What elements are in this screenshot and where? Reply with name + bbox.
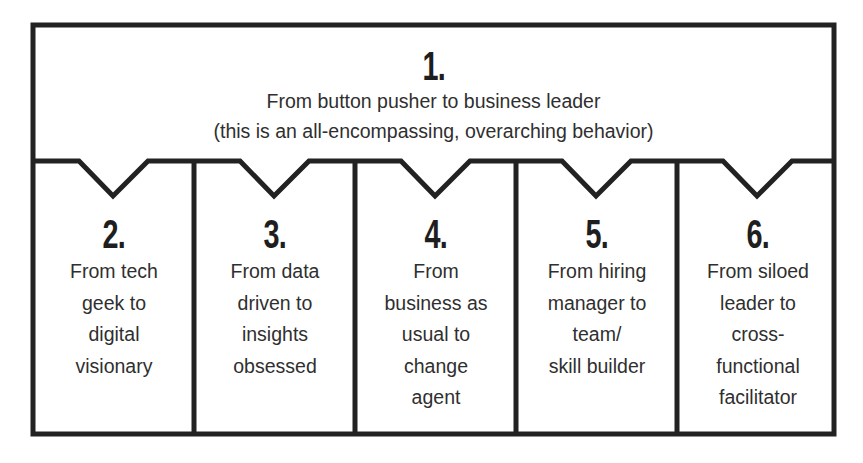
text-line: facilitator bbox=[679, 382, 837, 414]
behavior-number: 6. bbox=[747, 214, 770, 254]
notched-divider bbox=[33, 161, 834, 196]
overarching-behavior-box: 1. From button pusher to business leader… bbox=[34, 26, 833, 158]
text-line: manager to bbox=[518, 288, 676, 320]
behavior-number: 3. bbox=[264, 214, 287, 254]
text-line: From hiring bbox=[518, 256, 676, 288]
behavior-text: From siloed leader to cross- functional … bbox=[679, 256, 837, 414]
text-line: leader to bbox=[679, 288, 837, 320]
behavior-text: From hiring manager to team/ skill build… bbox=[518, 256, 676, 382]
behavior-number: 1. bbox=[422, 46, 445, 86]
behavior-text: From business as usual to change agent bbox=[357, 256, 515, 414]
text-line: obsessed bbox=[196, 351, 354, 383]
text-line: digital bbox=[35, 319, 193, 351]
text-line: From bbox=[357, 256, 515, 288]
behavior-text: From tech geek to digital visionary bbox=[35, 256, 193, 382]
behavior-title: From button pusher to business leader bbox=[34, 86, 833, 116]
text-line: skill builder bbox=[518, 351, 676, 383]
text-line: cross- bbox=[679, 319, 837, 351]
behavior-column-3: 3. From data driven to insights obsessed bbox=[196, 200, 354, 434]
text-line: geek to bbox=[35, 288, 193, 320]
text-line: From data bbox=[196, 256, 354, 288]
text-line: From siloed bbox=[679, 256, 837, 288]
text-line: business as bbox=[357, 288, 515, 320]
text-line: functional bbox=[679, 351, 837, 383]
text-line: agent bbox=[357, 382, 515, 414]
text-line: team/ bbox=[518, 319, 676, 351]
behavior-subtitle: (this is an all-encompassing, overarchin… bbox=[34, 116, 833, 146]
behavior-column-2: 2. From tech geek to digital visionary bbox=[35, 200, 193, 434]
text-line: change bbox=[357, 351, 515, 383]
behavior-number: 2. bbox=[103, 214, 126, 254]
behavior-column-6: 6. From siloed leader to cross- function… bbox=[679, 200, 837, 434]
behavior-text: From data driven to insights obsessed bbox=[196, 256, 354, 382]
behavior-column-4: 4. From business as usual to change agen… bbox=[357, 200, 515, 434]
text-line: usual to bbox=[357, 319, 515, 351]
behavior-column-5: 5. From hiring manager to team/ skill bu… bbox=[518, 200, 676, 434]
text-line: From tech bbox=[35, 256, 193, 288]
text-line: insights bbox=[196, 319, 354, 351]
behavior-number: 5. bbox=[586, 214, 609, 254]
text-line: visionary bbox=[35, 351, 193, 383]
text-line: driven to bbox=[196, 288, 354, 320]
behavior-number: 4. bbox=[425, 214, 448, 254]
